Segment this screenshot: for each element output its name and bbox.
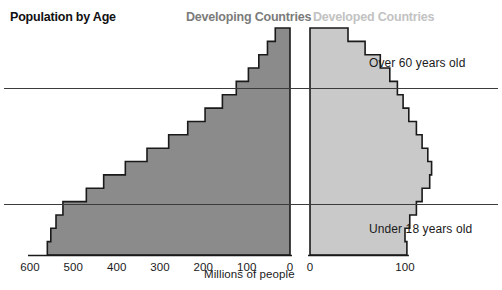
right-axis-tick-100: 100 [395, 261, 415, 273]
left-axis-tick-600: 600 [20, 261, 40, 273]
left-axis-tick-400: 400 [107, 261, 127, 273]
population-pyramid-chart: Population by Age Developing Countries D… [0, 0, 502, 290]
axis-unit-label: Millions of people [204, 268, 295, 280]
right-axis-tick-0: 0 [307, 261, 314, 273]
bars-developing-countries [47, 28, 290, 255]
left-axis-tick-300: 300 [150, 261, 170, 273]
pyramid-plot [0, 0, 502, 290]
annotation-over-60: Over 60 years old [369, 56, 465, 70]
left-axis-tick-500: 500 [64, 261, 84, 273]
annotation-under-18: Under 18 years old [369, 222, 472, 236]
developing-countries-pyramid [47, 28, 290, 255]
